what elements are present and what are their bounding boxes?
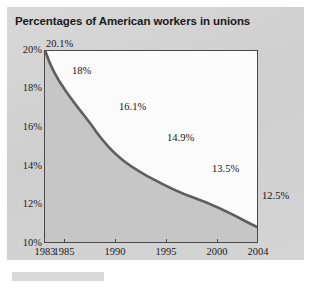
chart-figure: Percentages of American workers in union… [0,0,320,289]
area-fill [45,50,258,243]
data-label-2004: 12.5% [262,190,289,201]
y-tick-label-14: 14% [8,160,42,171]
data-label-1995: 14.9% [167,132,194,143]
y-tick-label-20: 20% [8,44,42,55]
x-tick-label-1995: 1995 [151,246,181,257]
y-tick-label-12: 12% [8,198,42,209]
plot-area [44,50,258,243]
x-tick-mark-1990 [115,239,116,243]
y-tick-label-18: 18% [8,82,42,93]
x-tick-mark-1995 [166,239,167,243]
area-series-svg [44,50,258,243]
chart-title: Percentages of American workers in union… [15,15,285,27]
data-label-1983: 20.1% [46,38,73,49]
x-tick-mark-1985 [64,239,65,243]
x-tick-label-1985: 1985 [49,246,79,257]
data-label-2000: 13.5% [212,163,239,174]
x-tick-label-2000: 2000 [202,246,232,257]
data-label-1985: 18% [72,65,91,76]
caption-placeholder-bar [12,272,104,281]
x-tick-mark-2000 [217,239,218,243]
x-tick-label-1990: 1990 [100,246,130,257]
data-label-1990: 16.1% [119,101,146,112]
y-tick-label-16: 16% [8,121,42,132]
x-tick-label-2004: 2004 [243,246,273,257]
